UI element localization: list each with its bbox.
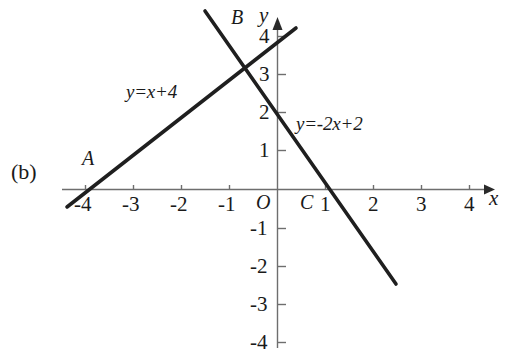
y-tick-label--2: -2 [250, 254, 268, 279]
x-tick-label-3: 3 [416, 192, 427, 217]
equation-label-line-2: y=-2x+2 [296, 113, 362, 135]
x-tick-label--2: -2 [170, 192, 188, 217]
line-y-equals-minus-2x-plus-2 [205, 11, 396, 284]
x-tick-label--4: -4 [74, 192, 92, 217]
y-tick-label-4: 4 [259, 24, 270, 49]
equation-label-line-1: y=x+4 [126, 81, 177, 103]
y-tick-label-2: 2 [259, 100, 270, 125]
origin-label: O [256, 191, 270, 214]
y-tick-label--4: -4 [250, 330, 268, 355]
point-label-b: B [231, 6, 243, 29]
y-tick-label--3: -3 [250, 292, 268, 317]
point-label-a: A [82, 147, 94, 170]
x-axis-label: x [489, 186, 498, 211]
x-tick-label-1: 1 [320, 192, 331, 217]
panel-label: (b) [11, 159, 37, 185]
figure-panel: (b) x y O -4 -3 -2 -1 1 2 3 4 4 3 2 1 -1… [0, 0, 510, 359]
point-label-c: C [300, 191, 313, 214]
y-tick-label-1: 1 [259, 138, 270, 163]
y-tick-label-3: 3 [259, 62, 270, 87]
x-tick-label--1: -1 [218, 192, 236, 217]
y-axis-arrow-icon [273, 17, 283, 30]
y-tick-label--1: -1 [250, 216, 268, 241]
x-tick-label-2: 2 [368, 192, 379, 217]
x-tick-label--3: -3 [122, 192, 140, 217]
x-tick-label-4: 4 [464, 192, 475, 217]
